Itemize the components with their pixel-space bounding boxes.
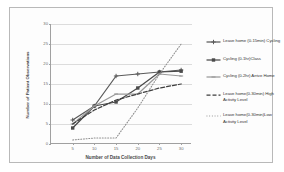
legend-item: Cycling (0-2hr) Arrive Home bbox=[206, 73, 282, 81]
series-5 bbox=[73, 44, 181, 140]
series-line bbox=[73, 74, 181, 124]
data-point-marker bbox=[136, 72, 140, 76]
legend-swatch bbox=[206, 112, 221, 120]
y-tick-label: 0 bbox=[46, 142, 48, 146]
series-plot bbox=[51, 24, 192, 144]
y-tick-label: 30 bbox=[43, 22, 48, 26]
x-tick-label: 30 bbox=[179, 147, 184, 151]
y-axis-label: Number of Patient Observations bbox=[26, 37, 30, 133]
series-line bbox=[73, 84, 181, 124]
data-point-marker bbox=[179, 70, 182, 73]
legend-swatch bbox=[206, 73, 221, 81]
x-tick-label: 15 bbox=[114, 147, 119, 151]
legend-label: Leave home (0-15min) Cycling bbox=[223, 38, 280, 44]
series-4 bbox=[73, 84, 181, 124]
y-tick-label: 15 bbox=[43, 82, 48, 86]
data-point-marker bbox=[71, 126, 74, 129]
legend-label: Cycling (0-1hr)Class bbox=[223, 56, 261, 62]
series-line bbox=[73, 44, 181, 140]
data-point-marker bbox=[136, 86, 139, 89]
data-point-marker bbox=[211, 40, 215, 44]
x-tick-label: 20 bbox=[135, 147, 140, 151]
series-line bbox=[73, 71, 181, 128]
legend-label: Cycling (0-2hr) Arrive Home bbox=[223, 73, 275, 79]
legend-swatch bbox=[206, 38, 221, 46]
legend-item: Cycling (0-1hr)Class bbox=[206, 56, 282, 64]
legend-label: Leave home(0-30min)Low Activity Level bbox=[223, 112, 282, 124]
chart-figure: 051015202530 51015202530 Number of Patie… bbox=[0, 0, 284, 172]
legend-item: Leave home (0-15min) Cycling bbox=[206, 38, 282, 46]
series-3 bbox=[71, 74, 183, 124]
x-axis-label: Number of Data Collection Days bbox=[50, 156, 191, 161]
y-tick-label: 5 bbox=[46, 122, 48, 126]
chart-frame: 051015202530 51015202530 Number of Patie… bbox=[9, 7, 273, 163]
y-tick-label: 20 bbox=[43, 62, 48, 66]
legend-item: Leave home(0-30min)Low Activity Level bbox=[206, 112, 282, 124]
legend-swatch bbox=[206, 91, 221, 99]
legend-swatch bbox=[206, 56, 221, 64]
x-tick-label: 10 bbox=[92, 147, 97, 151]
legend-item: Leave home(0-30min) High Activity Level bbox=[206, 91, 282, 103]
y-tick-label: 10 bbox=[43, 102, 48, 106]
series-2 bbox=[71, 70, 183, 130]
y-tick-label: 25 bbox=[43, 42, 48, 46]
chart-legend: Leave home (0-15min) CyclingCycling (0-1… bbox=[206, 38, 282, 134]
y-tick-mark bbox=[49, 144, 51, 145]
plot-area: 051015202530 51015202530 bbox=[50, 24, 191, 144]
x-tick-label: 25 bbox=[157, 147, 162, 151]
x-tick-label: 5 bbox=[72, 147, 74, 151]
data-point-marker bbox=[212, 58, 215, 61]
legend-label: Leave home(0-30min) High Activity Level bbox=[223, 91, 282, 103]
